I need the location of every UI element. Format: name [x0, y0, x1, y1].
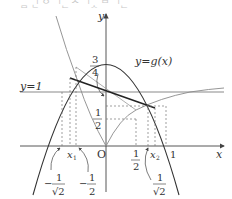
x-tick-one: 1	[170, 149, 176, 160]
label-x2: x 2	[150, 149, 160, 161]
svg-text:4: 4	[92, 67, 98, 78]
arc-arrow-neg-inv-sqrt2	[51, 148, 60, 170]
svg-text:1: 1	[56, 172, 62, 183]
function-graph-diagram: ᆷ ᅟᅵᆫ ᄋ ᅵᆫ ᄉ ᅵᆺ ᄆ ᅵᆫ y x O 1 y=g(x) y=1 …	[0, 0, 232, 199]
svg-text:2: 2	[95, 120, 101, 131]
svg-text:1: 1	[95, 107, 101, 118]
svg-text:2: 2	[133, 161, 139, 172]
label-neg-inv-sqrt2: − 1 √2	[44, 172, 65, 197]
y-axis-label: y	[97, 10, 105, 23]
label-y-half: 1 2	[93, 107, 102, 131]
chord-line	[70, 78, 155, 108]
svg-text:2: 2	[156, 154, 160, 161]
x-axis-label: x	[216, 148, 223, 161]
label-three-quarters: 3 4	[90, 54, 99, 78]
cropped-header-text: ᆷ ᅟᅵᆫ ᄋ ᅵᆫ ᄉ ᅵᆺ ᄆ ᅵᆫ	[20, 0, 128, 9]
label-x-half: 1 2	[131, 148, 140, 172]
svg-text:√2: √2	[153, 186, 166, 197]
svg-text:2: 2	[89, 186, 95, 197]
label-neg-half: − 1 2	[79, 172, 96, 197]
svg-text:1: 1	[73, 154, 77, 161]
svg-text:3: 3	[92, 54, 98, 65]
svg-text:√2: √2	[52, 186, 65, 197]
label-inv-sqrt2: 1 √2	[153, 172, 166, 197]
svg-text:1: 1	[157, 172, 163, 183]
label-x1: x 1	[67, 149, 77, 161]
parabola-label: y=g(x)	[134, 55, 172, 68]
svg-text:1: 1	[89, 172, 95, 183]
svg-text:−: −	[79, 178, 87, 189]
origin-label: O	[97, 148, 106, 161]
svg-text:1: 1	[133, 148, 139, 159]
line-y1-label: y=1	[19, 80, 42, 93]
arc-arrow-neg-half	[79, 148, 88, 172]
